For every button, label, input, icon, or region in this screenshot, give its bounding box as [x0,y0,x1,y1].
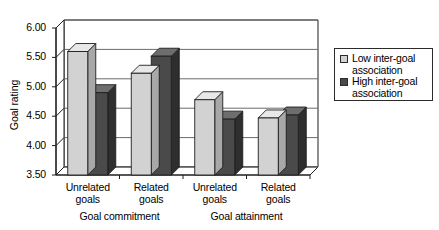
bar-low-2 [195,92,223,175]
x-group-label: Goal commitment [60,210,180,222]
x-category-label: Relatedgoals [233,181,323,205]
chart-container: Goal rating 3.504.004.505.005.506.00 Unr… [0,0,439,230]
x-category-label-line1: Unrelated [193,181,237,193]
x-group-label: Goal attainment [187,210,307,222]
bar-low-1 [131,65,159,175]
legend-item-high: High inter-goal association [340,76,432,99]
legend: Low inter-goal association High inter-go… [334,48,433,101]
x-category-label-line1: Related [261,181,296,193]
x-category-label-line2: goals [233,193,323,205]
x-category-label-line1: Unrelated [66,181,110,193]
x-category-label-line1: Related [134,181,169,193]
legend-label-high: High inter-goal association [352,76,417,99]
legend-swatch-low-icon [340,55,348,63]
legend-item-low: Low inter-goal association [340,53,432,76]
bar-low-0 [68,44,96,175]
bar-low-3 [258,110,286,175]
legend-swatch-high-icon [340,78,348,86]
legend-label-low: Low inter-goal association [352,53,415,76]
